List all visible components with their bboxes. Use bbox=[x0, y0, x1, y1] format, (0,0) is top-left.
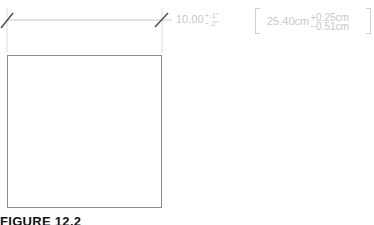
metric-tolerance-stack: +0.25cm−0.51cm bbox=[310, 13, 349, 31]
nominal-value: 10.00 bbox=[176, 13, 204, 25]
dimension-text-imperial: 10.00+.1"−.2" bbox=[176, 12, 219, 28]
metric-tolerance-minus: −0.51cm bbox=[310, 22, 349, 31]
tolerance-minus: −.2" bbox=[205, 20, 219, 28]
tolerance-stack: +.1"−.2" bbox=[205, 12, 219, 28]
bracket-left bbox=[255, 8, 260, 34]
dimension-text-metric: 25.40cm+0.25cm−0.51cm bbox=[255, 8, 371, 34]
figure-caption: FIGURE 12.2 bbox=[0, 214, 81, 225]
metric-nominal-value: 25.40cm bbox=[267, 15, 309, 27]
object-outline bbox=[8, 56, 162, 208]
bracket-right bbox=[366, 8, 371, 34]
